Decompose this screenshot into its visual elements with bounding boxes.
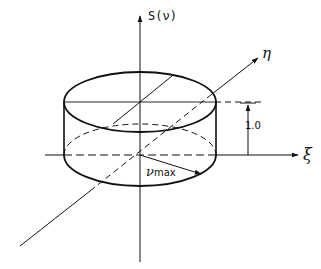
eta-axis-label: η	[262, 44, 271, 62]
s-axis-label: S(ν)	[148, 9, 177, 23]
eta-top-face-line	[113, 76, 172, 124]
eta-axis-lower	[20, 191, 90, 246]
xi-axis-label: ξ	[303, 145, 312, 164]
radius-label: νmax	[146, 164, 176, 179]
height-value-label: 1.0	[245, 120, 261, 131]
radius-subscript: max	[154, 167, 176, 178]
cylinder-diagram	[0, 0, 321, 269]
radius-symbol: ν	[146, 164, 154, 179]
eta-axis-upper	[207, 58, 258, 98]
